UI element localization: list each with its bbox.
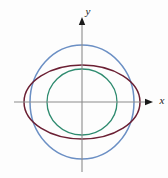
x-axis-label: x — [159, 94, 165, 106]
ellipse-family-figure: x y — [0, 0, 168, 178]
y-axis-label: y — [85, 5, 91, 17]
figure-background — [0, 0, 168, 178]
figure-canvas: x y — [0, 0, 168, 178]
